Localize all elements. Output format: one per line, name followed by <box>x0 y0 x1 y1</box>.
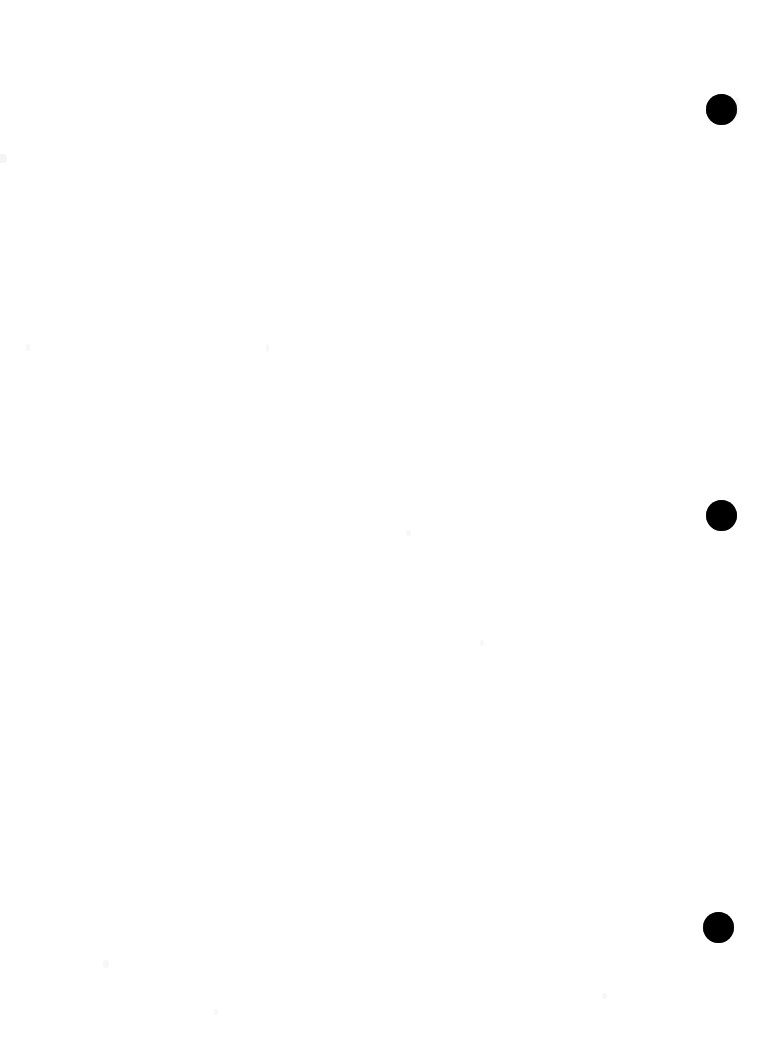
scan-artifact-left-edge <box>0 154 7 163</box>
scanned-page <box>0 0 761 1039</box>
scan-artifact-upper-mid <box>266 344 269 352</box>
black-dot-mark-middle <box>706 500 737 531</box>
black-dot-mark-bottom <box>703 912 734 943</box>
scan-artifact-bottom-left <box>214 1009 218 1015</box>
scan-artifact-lower-left <box>103 960 109 968</box>
page-text-layer <box>0 0 761 1039</box>
scan-artifact-center-low <box>480 640 484 646</box>
scan-artifact-upper-left <box>26 344 30 351</box>
scan-artifact-right-edge <box>735 98 740 117</box>
black-dot-mark-top <box>706 94 737 125</box>
scan-artifact-center <box>406 530 411 536</box>
scan-artifact-bottom-mid <box>602 993 607 999</box>
